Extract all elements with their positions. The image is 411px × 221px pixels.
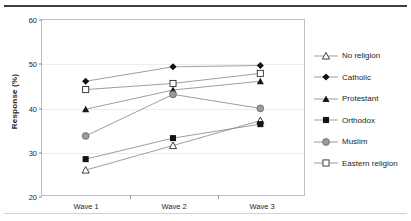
data-point	[170, 91, 177, 98]
data-point	[83, 87, 89, 93]
data-point	[257, 121, 263, 127]
top-rule	[4, 5, 407, 7]
legend-marker-filled-triangle-icon	[313, 92, 339, 106]
legend-marker-open-triangle-icon	[313, 49, 339, 63]
data-point	[257, 62, 264, 69]
legend-marker-filled-diamond-icon	[313, 70, 339, 84]
legend-marker-open-square-icon	[313, 156, 339, 170]
series-layer	[42, 20, 304, 195]
x-tick-label: Wave 3	[249, 202, 274, 211]
bottom-rule	[4, 213, 407, 214]
data-point	[170, 80, 176, 86]
y-tick-label: 30	[29, 148, 37, 157]
x-tick-label: Wave 1	[73, 202, 98, 211]
x-tick-mark	[218, 195, 219, 199]
legend-item-catholic[interactable]: Catholic	[313, 67, 411, 89]
chart-legend: No religionCatholicProtestantOrthodoxMus…	[313, 45, 411, 174]
data-point	[170, 135, 176, 141]
y-tick-label: 60	[29, 16, 37, 25]
data-point	[257, 105, 264, 112]
y-tick-label: 20	[29, 193, 37, 202]
series-no-religion	[82, 117, 264, 173]
y-tick-label: 50	[29, 60, 37, 69]
legend-label: No religion	[342, 51, 380, 60]
series-muslim	[82, 91, 263, 139]
legend-label: Catholic	[342, 73, 371, 82]
legend-item-eastern-religion[interactable]: Eastern religion	[313, 153, 411, 175]
x-tick-mark	[130, 195, 131, 199]
legend-item-muslim[interactable]: Muslim	[313, 131, 411, 153]
legend-item-no-religion[interactable]: No religion	[313, 45, 411, 67]
y-axis-title: Response (%)	[10, 57, 19, 147]
legend-marker-filled-square-icon	[313, 113, 339, 127]
y-tick-label: 40	[29, 104, 37, 113]
data-point	[82, 78, 89, 85]
legend-marker-gray-circle-icon	[313, 135, 339, 149]
data-point	[257, 70, 263, 76]
legend-label: Orthodox	[342, 116, 375, 125]
data-point	[169, 63, 176, 70]
legend-item-orthodox[interactable]: Orthodox	[313, 110, 411, 132]
legend-label: Muslim	[342, 137, 367, 146]
chart-figure: Response (%) 2030405060 Wave 1Wave 2Wave…	[0, 0, 411, 221]
x-tick-label: Wave 2	[161, 202, 186, 211]
series-line	[86, 94, 261, 136]
data-point	[82, 133, 89, 140]
legend-label: Eastern religion	[342, 159, 398, 168]
data-point	[169, 142, 176, 149]
legend-label: Protestant	[342, 94, 378, 103]
data-point	[257, 78, 264, 85]
data-point	[83, 156, 89, 162]
y-tick-mark	[39, 197, 42, 198]
plot-area: 2030405060 Wave 1Wave 2Wave 3	[41, 19, 305, 196]
legend-item-protestant[interactable]: Protestant	[313, 88, 411, 110]
